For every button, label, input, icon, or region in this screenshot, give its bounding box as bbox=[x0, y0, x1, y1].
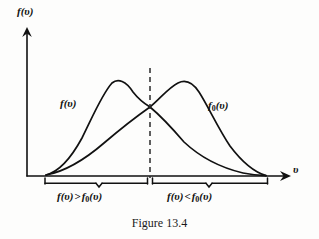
region-left-operator: > bbox=[73, 190, 81, 202]
region-left-rhs-tail: (υ) bbox=[89, 190, 102, 202]
brace-left-region bbox=[45, 178, 148, 187]
region-right-operator: < bbox=[183, 190, 191, 202]
curve-label-f0-tail: (υ) bbox=[216, 99, 229, 111]
y-axis-label: f(υ) bbox=[17, 5, 33, 17]
figure-panel: f(υ) υ f(υ) f0(υ) f(υ)>f0(υ) f(υ)<f0(υ) … bbox=[0, 0, 319, 239]
region-label-left: f(υ)>f0(υ) bbox=[57, 190, 102, 204]
region-right-lhs-tail: (υ) bbox=[171, 190, 184, 202]
x-axis-label: υ bbox=[293, 163, 298, 175]
curve-f0 bbox=[46, 81, 266, 175]
figure-caption: Figure 13.4 bbox=[0, 216, 319, 231]
curve-label-f-tail: (υ) bbox=[64, 97, 77, 109]
region-label-right: f(υ)<f0(υ) bbox=[167, 190, 212, 204]
y-axis bbox=[22, 27, 32, 176]
region-left-lhs-tail: (υ) bbox=[61, 190, 74, 202]
curve-label-f0: f0(υ) bbox=[208, 99, 228, 113]
region-right-rhs-tail: (υ) bbox=[199, 190, 212, 202]
plot-canvas bbox=[0, 0, 319, 239]
x-axis bbox=[27, 171, 291, 181]
brace-right-region bbox=[153, 178, 268, 187]
curve-label-f: f(υ) bbox=[60, 97, 76, 109]
